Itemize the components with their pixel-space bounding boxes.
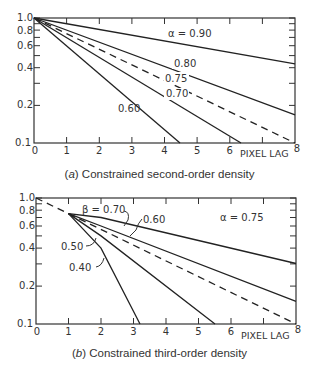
svg-text:0.2: 0.2 <box>17 99 33 110</box>
caption-a-text: Constrained second-order density <box>79 168 255 180</box>
svg-text:1: 1 <box>65 326 71 337</box>
svg-text:0.4: 0.4 <box>17 62 33 73</box>
y-tick-labels-a: 1.0 0.8 0.6 0.4 0.2 0.1 <box>15 12 33 148</box>
line-alpha-0.60 <box>34 18 180 143</box>
svg-text:5: 5 <box>194 145 200 156</box>
svg-text:8: 8 <box>295 324 301 335</box>
caption-a-letter: a <box>68 168 74 180</box>
annotations-a: α = 0.90 0.80 0.75 0.70 0.60 <box>118 27 214 114</box>
svg-text:0.4: 0.4 <box>19 242 35 253</box>
x-axis-label-b: PIXEL LAG <box>241 330 290 341</box>
svg-text:0.60: 0.60 <box>118 103 140 114</box>
svg-text:β = 0.70: β = 0.70 <box>82 204 125 215</box>
chart-b: 1.0 0.8 0.6 0.4 0.2 0.1 0 1 2 3 4 5 6 8 … <box>17 192 301 341</box>
chart-a: 1.0 0.8 0.6 0.4 0.2 0.1 0 1 2 3 4 5 6 8 … <box>15 12 300 159</box>
svg-text:α = 0.75: α = 0.75 <box>220 212 264 223</box>
svg-text:0.1: 0.1 <box>15 137 31 148</box>
svg-text:0.2: 0.2 <box>19 280 35 291</box>
line-beta-0.60 <box>69 214 297 302</box>
svg-text:4: 4 <box>161 145 167 156</box>
svg-text:1.0: 1.0 <box>17 12 33 23</box>
svg-text:1.0: 1.0 <box>19 192 35 203</box>
svg-text:0.80: 0.80 <box>174 58 196 69</box>
svg-text:0: 0 <box>32 145 38 156</box>
y-tick-labels-b: 1.0 0.8 0.6 0.4 0.2 0.1 <box>17 192 35 329</box>
svg-text:4: 4 <box>163 326 169 337</box>
line-alpha-0.80 <box>34 18 295 115</box>
svg-text:6: 6 <box>228 326 234 337</box>
svg-text:0.75: 0.75 <box>165 73 187 84</box>
caption-b: (b) Constrained third-order density <box>0 347 319 359</box>
svg-text:2: 2 <box>96 145 102 156</box>
svg-text:0: 0 <box>34 326 40 337</box>
caption-b-text: Constrained third-order density <box>86 347 247 359</box>
svg-text:0.6: 0.6 <box>19 220 35 231</box>
svg-text:0.40: 0.40 <box>69 262 91 273</box>
svg-text:0.70: 0.70 <box>166 88 188 99</box>
caption-a: (a) Constrained second-order density <box>0 168 319 180</box>
svg-text:0.50: 0.50 <box>61 241 83 252</box>
caption-b-letter: b <box>76 347 82 359</box>
svg-text:α = 0.90: α = 0.90 <box>168 28 212 39</box>
x-axis-label-a: PIXEL LAG <box>240 148 289 159</box>
svg-text:3: 3 <box>129 145 135 156</box>
svg-text:6: 6 <box>227 145 233 156</box>
svg-text:0.8: 0.8 <box>19 205 35 216</box>
svg-text:2: 2 <box>98 326 104 337</box>
svg-text:1: 1 <box>63 145 69 156</box>
svg-text:0.60: 0.60 <box>143 214 165 225</box>
svg-text:5: 5 <box>195 326 201 337</box>
svg-text:0.6: 0.6 <box>17 40 33 51</box>
svg-text:3: 3 <box>130 326 136 337</box>
svg-text:8: 8 <box>294 143 300 154</box>
svg-text:0.1: 0.1 <box>17 318 33 329</box>
figure: 1.0 0.8 0.6 0.4 0.2 0.1 0 1 2 3 4 5 6 8 … <box>0 0 319 369</box>
svg-text:0.8: 0.8 <box>17 25 33 36</box>
